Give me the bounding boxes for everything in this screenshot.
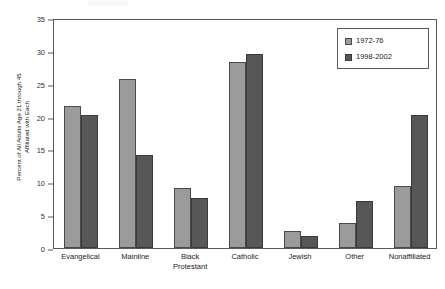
bar [229, 62, 246, 248]
bar [339, 223, 356, 248]
bar [174, 188, 191, 248]
legend-item-1998-2002: 1998-2002 [345, 52, 392, 62]
bar [81, 115, 98, 248]
x-axis-labels: EvangelicalMainlineBlackProtestantCathol… [53, 252, 437, 288]
bar-group [164, 20, 219, 248]
x-axis-label-line: Jewish [272, 252, 327, 262]
bar [246, 54, 263, 248]
legend-swatch-icon-1998-2002 [345, 54, 352, 61]
y-tick-label: 20 [15, 115, 45, 123]
x-axis-label: Nonaffiliated [382, 252, 437, 262]
y-tick-label: 25 [15, 82, 45, 90]
x-axis-label: Other [327, 252, 382, 262]
bar [301, 236, 318, 248]
bar [119, 79, 136, 248]
legend-label-1998-2002: 1998-2002 [356, 53, 392, 61]
bar [394, 186, 411, 248]
x-axis-label: Mainline [108, 252, 163, 262]
legend-label-1972-76: 1972-76 [356, 37, 384, 45]
x-axis-label-line: Other [327, 252, 382, 262]
bar-group [273, 20, 328, 248]
top-edge-artifact [88, 1, 128, 6]
y-tick-label: 0 [15, 246, 45, 254]
bar [191, 198, 208, 248]
x-axis-label: Jewish [272, 252, 327, 262]
x-axis-label-line: Nonaffiliated [382, 252, 437, 262]
legend-item-1972-76: 1972-76 [345, 36, 384, 46]
y-tick-label: 30 [15, 49, 45, 57]
y-tick-label: 5 [15, 213, 45, 221]
x-axis-label: Catholic [218, 252, 273, 262]
legend: 1972-76 1998-2002 [337, 28, 429, 69]
bar [136, 155, 153, 248]
bar [411, 115, 428, 248]
y-tick-label: 35 [15, 16, 45, 24]
y-tick-label: 10 [15, 181, 45, 189]
x-axis-label-line: Protestant [163, 262, 218, 272]
legend-swatch-icon-1972-76 [345, 38, 352, 45]
bar [284, 231, 301, 248]
y-axis: 05101520253035 [0, 19, 53, 250]
x-axis-label-line: Mainline [108, 252, 163, 262]
bar [356, 201, 373, 248]
x-axis-label-line: Catholic [218, 252, 273, 262]
x-axis-label-line: Evangelical [53, 252, 108, 262]
bar [64, 106, 81, 248]
bar-group [54, 20, 109, 248]
y-tick-label: 15 [15, 148, 45, 156]
bar-chart: Percent of All Adults Age 21 through 45 … [0, 0, 445, 289]
x-axis-label-line: Black [163, 252, 218, 262]
bar-group [109, 20, 164, 248]
x-axis-label: BlackProtestant [163, 252, 218, 272]
x-axis-label: Evangelical [53, 252, 108, 262]
y-tick-mark [48, 250, 53, 251]
bar-group [219, 20, 274, 248]
